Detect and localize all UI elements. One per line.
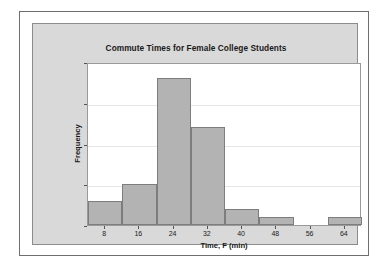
x-tick-mark-64 xyxy=(344,226,345,229)
x-tick-label-32: 32 xyxy=(203,230,211,237)
x-tick-label-56: 56 xyxy=(306,230,314,237)
x-tick-mark-8 xyxy=(104,226,105,229)
x-tick-mark-56 xyxy=(310,226,311,229)
x-tick-mark-40 xyxy=(241,226,242,229)
x-tick-label-16: 16 xyxy=(134,230,142,237)
y-tick-mark-0 xyxy=(84,226,87,227)
x-tick-label-40: 40 xyxy=(237,230,245,237)
bar-8 xyxy=(88,201,122,225)
x-tick-label-8: 8 xyxy=(102,230,106,237)
figure-root: Commute Times for Female College Student… xyxy=(0,0,391,270)
bar-40 xyxy=(225,209,259,225)
x-tick-mark-16 xyxy=(138,226,139,229)
chart-panel: Commute Times for Female College Student… xyxy=(32,23,358,245)
bar-16 xyxy=(122,184,156,225)
x-tick-mark-32 xyxy=(207,226,208,229)
x-tick-label-48: 48 xyxy=(271,230,279,237)
bar-32 xyxy=(191,127,225,225)
bar-64 xyxy=(328,217,362,225)
x-axis-title: Time, F (min) xyxy=(87,241,361,250)
gridline-y-15 xyxy=(88,105,360,106)
x-tick-mark-24 xyxy=(173,226,174,229)
chart-title: Commute Times for Female College Student… xyxy=(33,43,359,53)
x-tick-label-64: 64 xyxy=(340,230,348,237)
bar-24 xyxy=(157,78,191,225)
y-axis-title: Frequency xyxy=(73,113,82,173)
bar-48 xyxy=(259,217,293,225)
figure-outer-frame: Commute Times for Female College Student… xyxy=(19,11,369,256)
x-tick-label-24: 24 xyxy=(169,230,177,237)
plot-area xyxy=(87,63,361,226)
x-tick-mark-48 xyxy=(275,226,276,229)
